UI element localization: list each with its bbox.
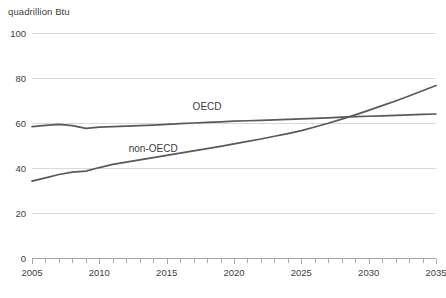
data-series [32,85,436,181]
x-tick-label-2025: 2025 [291,267,312,278]
x-axis-tick-labels: 2005201020152020202520302035 [21,267,446,278]
chart-plot-area: 020406080100 200520102015202020252030203… [0,0,446,298]
series-line-non-oecd [32,85,436,181]
x-tick-label-2010: 2010 [89,267,110,278]
series-line-oecd [32,114,436,128]
gridlines [32,34,436,214]
y-tick-label-20: 20 [15,208,26,219]
x-tick-label-2030: 2030 [358,267,379,278]
y-tick-label-40: 40 [15,163,26,174]
series-label-non-oecd: non-OECD [129,143,178,154]
x-tick-label-2020: 2020 [223,267,244,278]
x-axis [32,259,437,264]
energy-consumption-line-chart: quadrillion Btu 020406080100 20052010201… [0,0,446,298]
y-tick-label-0: 0 [21,253,26,264]
x-tick-label-2015: 2015 [156,267,177,278]
y-tick-label-60: 60 [15,118,26,129]
x-tick-label-2035: 2035 [425,267,446,278]
series-label-oecd: OECD [193,101,222,112]
y-axis-tick-labels: 020406080100 [10,28,26,264]
y-tick-label-100: 100 [10,28,26,39]
x-tick-label-2005: 2005 [21,267,42,278]
y-tick-label-80: 80 [15,73,26,84]
series-inline-labels: OECDnon-OECD [129,101,222,155]
